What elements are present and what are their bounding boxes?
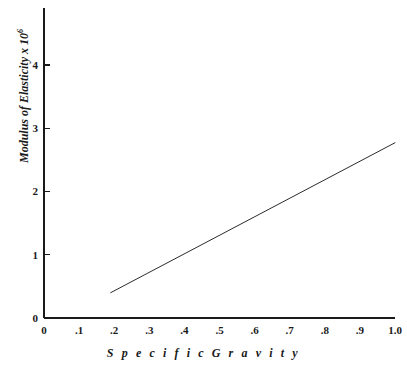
data-line-modulus-vs-specific-gravity <box>111 143 395 293</box>
axes-group <box>44 8 395 318</box>
y-tick-label: 1 <box>24 249 38 260</box>
x-tick-label: .5 <box>215 325 223 336</box>
x-tick-label: .9 <box>356 325 364 336</box>
data-series-group <box>111 143 395 293</box>
x-tick-label: .3 <box>145 325 153 336</box>
y-tick-label: 2 <box>24 186 38 197</box>
y-axis-title-exponent: 6 <box>16 29 25 33</box>
y-axis-title: Modulus of Elasticity x 106 <box>16 6 32 186</box>
y-tick-label: 0 <box>24 313 38 324</box>
x-tick-label: .7 <box>286 325 294 336</box>
x-tick-label: .6 <box>250 325 258 336</box>
x-tick-label: 1.0 <box>388 325 402 336</box>
x-tick-label: .1 <box>75 325 83 336</box>
x-tick-label: .4 <box>180 325 188 336</box>
chart-figure: 0.1.2.3.4.5.6.7.8.91.0 01234 S p e c i f… <box>0 0 407 375</box>
x-tick-label: .2 <box>110 325 118 336</box>
y-axis-title-text: Modulus of Elasticity x 10 <box>17 33 31 163</box>
x-axis-title: S p e c i f i c G r a v i t y <box>0 346 407 361</box>
plot-canvas <box>0 0 407 375</box>
x-tick-label: 0 <box>41 325 47 336</box>
x-tick-label: .8 <box>321 325 329 336</box>
